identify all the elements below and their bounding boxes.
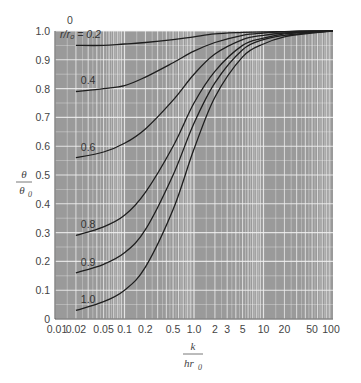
x-tick-label: 3 <box>224 323 230 335</box>
svg-text:0: 0 <box>28 190 32 199</box>
position-correction-chart: r/r₀ = 0.20.40.60.80.91.0 0.010.020.050.… <box>0 0 361 383</box>
x-tick-label: 2 <box>212 323 218 335</box>
x-tick-label: 0.02 <box>66 323 87 335</box>
curve-label-r-0-2: r/r₀ = 0.2 <box>60 28 101 40</box>
y-tick-label: 1.0 <box>35 25 50 37</box>
curve-label-r-0-8: 0.8 <box>81 218 96 230</box>
x-tick-label: 50 <box>306 323 318 335</box>
y-tick-label: 0.7 <box>35 111 50 123</box>
y-tick-label: 0.4 <box>35 198 50 210</box>
svg-text:0: 0 <box>198 363 202 372</box>
svg-text:θ: θ <box>21 168 27 180</box>
y-tick-label: 0.1 <box>35 284 50 296</box>
top-zero-label: 0 <box>67 14 73 26</box>
x-tick-label: 20 <box>279 323 291 335</box>
y-axis-label: θ θ 0 <box>16 168 32 199</box>
y-tick-label: 0.9 <box>35 54 50 66</box>
x-tick-label: 0.5 <box>166 323 181 335</box>
x-tick-label: 5 <box>240 323 246 335</box>
x-axis-label: k hr 0 <box>183 340 203 372</box>
x-tick-label: 0.2 <box>138 323 153 335</box>
x-tick-label: 0.05 <box>93 323 114 335</box>
svg-text:k: k <box>191 340 197 352</box>
y-axis-ticks: 00.10.20.30.40.50.60.70.80.91.0 <box>35 25 50 325</box>
y-tick-label: 0.2 <box>35 255 50 267</box>
curve-label-r-0-6: 0.6 <box>81 141 96 153</box>
x-tick-label: 1.0 <box>187 323 202 335</box>
svg-text:θ: θ <box>19 184 25 196</box>
curve-label-r-1-0: 1.0 <box>81 293 96 305</box>
x-axis-ticks: 0.010.020.050.10.20.51.0235102050100 <box>47 323 340 335</box>
y-tick-label: 0 <box>44 313 50 325</box>
curve-label-r-0-9: 0.9 <box>81 256 96 268</box>
y-tick-label: 0.8 <box>35 83 50 95</box>
curve-label-r-0-4: 0.4 <box>81 74 96 86</box>
x-tick-label: 0.1 <box>117 323 132 335</box>
y-tick-label: 0.3 <box>35 227 50 239</box>
svg-text:hr: hr <box>184 357 195 369</box>
x-tick-label: 100 <box>322 323 340 335</box>
x-tick-label: 10 <box>258 323 270 335</box>
y-tick-label: 0.6 <box>35 140 50 152</box>
y-tick-label: 0.5 <box>35 169 50 181</box>
